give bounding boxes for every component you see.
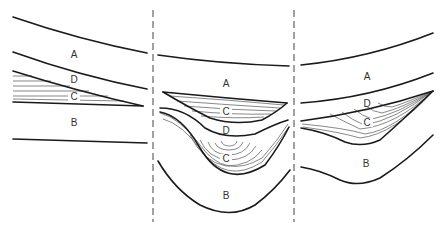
middle-label-c-upper: C <box>222 106 229 117</box>
right-label-a: A <box>364 71 371 82</box>
middle-panel: A C D C B <box>158 55 290 213</box>
right-label-d: D <box>363 98 370 109</box>
left-label-c: C <box>70 91 77 102</box>
left-label-d: D <box>70 74 77 85</box>
left-label-a: A <box>71 49 78 60</box>
left-c-b-boundary <box>13 102 143 106</box>
cross-section-diagram: A D C B A <box>0 0 445 228</box>
right-top-boundary <box>301 33 433 65</box>
left-bottom-boundary <box>13 139 147 143</box>
right-label-c: C <box>363 117 370 128</box>
middle-top-boundary <box>158 55 289 66</box>
middle-label-c-lower: C <box>222 153 229 164</box>
middle-label-b: B <box>223 190 230 201</box>
left-top-boundary <box>13 17 147 53</box>
left-panel: A D C B <box>13 17 147 143</box>
middle-label-d: D <box>222 125 229 136</box>
middle-label-a: A <box>223 78 230 89</box>
left-label-b: B <box>71 117 78 128</box>
right-panel: A D C B <box>301 33 433 184</box>
middle-b-top-boundary <box>158 161 290 213</box>
right-label-b: B <box>363 158 370 169</box>
left-a-d-boundary <box>13 52 147 89</box>
